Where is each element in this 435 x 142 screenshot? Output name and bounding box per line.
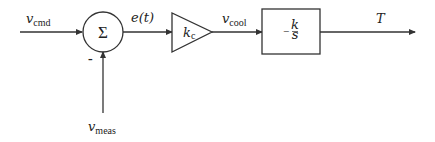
input-label: vcmd (26, 11, 51, 28)
integrator-denominator: s (292, 27, 299, 42)
block-diagram: vcmd Σ - vmeas e(t) kc vcool − k s T (0, 0, 435, 142)
minus-sign: - (88, 51, 93, 66)
output-label: T (376, 11, 386, 26)
sigma-symbol: Σ (98, 23, 108, 42)
control-label: vcool (222, 11, 247, 28)
feedback-label: vmeas (88, 119, 116, 136)
error-label: e(t) (131, 10, 154, 25)
integrator-sign: − (283, 25, 289, 37)
